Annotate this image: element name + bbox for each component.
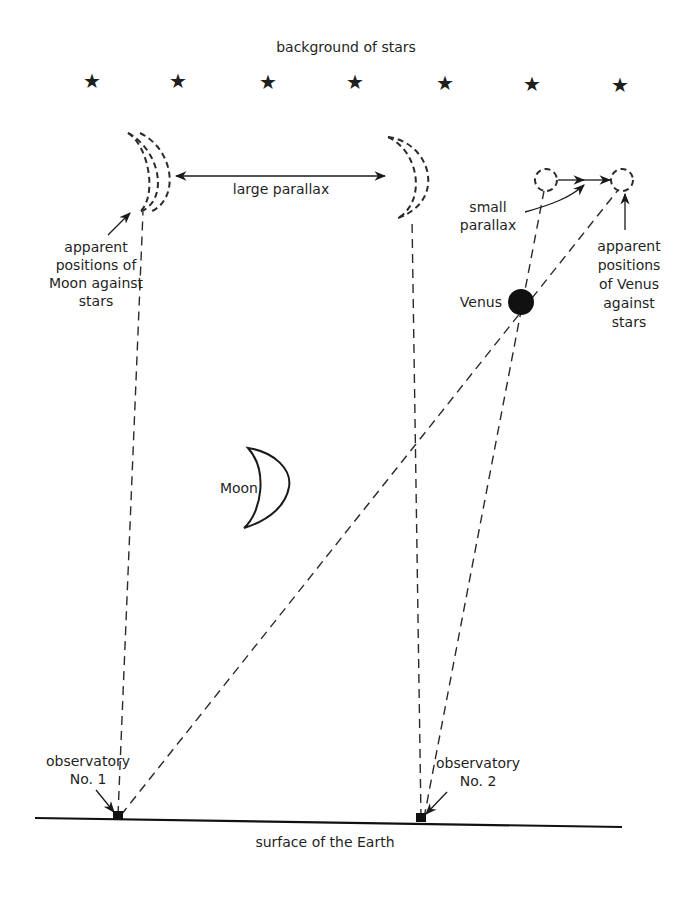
star-icon: ★	[346, 70, 364, 94]
venus-apparent-left	[535, 169, 557, 191]
venus-apparent-right	[611, 169, 633, 191]
observatory-2-pointer	[426, 792, 447, 814]
svg-text:observatory: observatory	[436, 755, 520, 771]
svg-text:stars: stars	[612, 314, 646, 330]
star-icon: ★	[523, 72, 541, 96]
svg-text:No. 2: No. 2	[460, 773, 497, 789]
venus-apparent-label: apparent positions of Venus against star…	[597, 238, 661, 330]
sight-line-obs1-venus	[121, 190, 618, 815]
svg-text:apparent: apparent	[64, 239, 128, 255]
star-icon: ★	[259, 70, 277, 94]
sight-lines	[118, 190, 618, 818]
star-icon: ★	[436, 71, 454, 95]
earth-surface-line	[35, 818, 622, 827]
earth-surface-label: surface of the Earth	[255, 834, 394, 850]
svg-text:Moon against: Moon against	[49, 275, 144, 291]
star-icon: ★	[83, 69, 101, 93]
sight-line-obs1-moon	[118, 212, 143, 815]
large-parallax-label: large parallax	[233, 181, 329, 197]
small-parallax-label-2: parallax	[460, 217, 516, 233]
observatory-1-label: observatory No. 1	[46, 753, 130, 787]
svg-text:of Venus: of Venus	[599, 276, 659, 292]
sight-line-obs2-moon	[412, 218, 421, 818]
moon-label: Moon	[220, 480, 258, 496]
observatory-2-marker	[416, 813, 426, 822]
observatory-1-marker	[113, 811, 123, 819]
venus-planet	[508, 289, 534, 315]
svg-text:positions of: positions of	[56, 257, 138, 273]
svg-text:observatory: observatory	[46, 753, 130, 769]
svg-text:against: against	[603, 295, 655, 311]
venus-label: Venus	[460, 294, 502, 310]
moon-apparent-right	[388, 137, 428, 218]
svg-text:stars: stars	[79, 293, 113, 309]
moon-apparent-pointer-arrow	[108, 213, 130, 235]
small-parallax-pointer	[525, 185, 584, 212]
observatory-1-pointer	[96, 790, 114, 812]
star-icon: ★	[611, 73, 629, 97]
moon-apparent-label: apparent positions of Moon against stars	[49, 239, 144, 309]
star-icon: ★	[169, 69, 187, 93]
svg-text:apparent: apparent	[597, 238, 661, 254]
svg-text:No. 1: No. 1	[70, 771, 107, 787]
observatory-2-label: observatory No. 2	[436, 755, 520, 789]
moon-apparent-left	[128, 133, 170, 212]
svg-text:positions: positions	[598, 257, 661, 273]
star-row: ★ ★ ★ ★ ★ ★ ★	[83, 69, 629, 97]
sight-line-obs2-venus	[424, 191, 544, 818]
parallax-diagram: background of stars ★ ★ ★ ★ ★ ★ ★ large …	[0, 0, 695, 898]
small-parallax-label-1: small	[469, 199, 506, 215]
title-background-of-stars: background of stars	[276, 39, 416, 55]
